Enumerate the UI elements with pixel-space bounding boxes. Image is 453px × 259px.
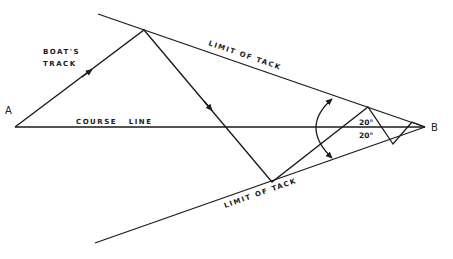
point-a-label: A	[5, 105, 12, 116]
boats-track-label-2: TRACK	[43, 60, 77, 68]
point-b-label: B	[431, 122, 438, 133]
course-line-label: COURSE LINE	[76, 118, 153, 126]
upper-limit-line	[98, 14, 425, 127]
angle-upper-label: 20°	[359, 118, 373, 127]
track-arrow-2	[204, 101, 212, 111]
track-arrow-1	[82, 70, 92, 78]
lower-limit-line	[95, 127, 425, 243]
angle-lower-label: 20°	[359, 131, 373, 140]
angle-arc	[316, 99, 332, 158]
track-inner-segment	[412, 122, 425, 127]
tacking-diagram: A B BOAT'S TRACK COURSE LINE LIMIT OF TA…	[0, 0, 453, 259]
boats-track-label-1: BOAT'S	[43, 48, 80, 56]
